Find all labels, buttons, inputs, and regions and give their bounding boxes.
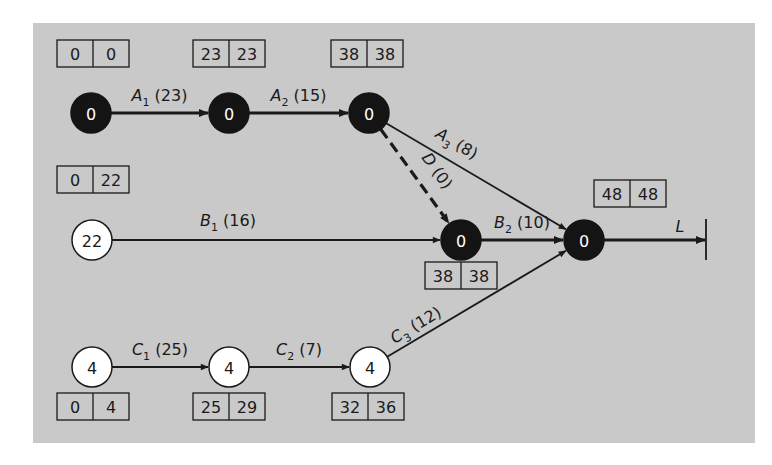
event-node-c1: 4 [209, 347, 249, 387]
latest-time: 22 [101, 171, 121, 190]
latest-time: 36 [376, 398, 396, 417]
time-box-end: 4848 [594, 180, 666, 207]
time-box-a1: 2323 [193, 40, 265, 67]
earliest-time: 32 [340, 398, 360, 417]
node-slack-value: 0 [86, 105, 96, 124]
latest-time: 29 [237, 398, 257, 417]
latest-time: 38 [375, 45, 395, 64]
earliest-time: 48 [602, 185, 622, 204]
activity-l-label: L [676, 217, 685, 236]
network-diagram: A1 (23)A2 (15)A3 (8)D (0)B1 (16)B2 (10)C… [0, 0, 772, 465]
event-node-a2: 0 [349, 93, 389, 133]
node-slack-value: 0 [579, 232, 589, 251]
latest-time: 0 [106, 45, 116, 64]
event-node-b0: 22 [72, 220, 112, 260]
earliest-time: 0 [70, 398, 80, 417]
latest-time: 48 [638, 185, 658, 204]
latest-time: 38 [469, 267, 489, 286]
earliest-time: 0 [70, 171, 80, 190]
event-node-end: 0 [564, 220, 604, 260]
node-slack-value: 0 [456, 232, 466, 251]
earliest-time: 38 [339, 45, 359, 64]
earliest-time: 0 [70, 45, 80, 64]
time-box-a2: 3838 [331, 40, 403, 67]
latest-time: 4 [106, 398, 116, 417]
node-slack-value: 0 [364, 105, 374, 124]
event-node-a1: 0 [209, 93, 249, 133]
event-node-c0: 4 [72, 347, 112, 387]
node-slack-value: 0 [224, 105, 234, 124]
earliest-time: 25 [201, 398, 221, 417]
node-slack-value: 4 [365, 359, 375, 378]
node-slack-value: 4 [224, 359, 234, 378]
node-slack-value: 22 [82, 232, 102, 251]
event-node-d: 0 [441, 220, 481, 260]
earliest-time: 38 [433, 267, 453, 286]
node-slack-value: 4 [87, 359, 97, 378]
latest-time: 23 [237, 45, 257, 64]
event-node-c2: 4 [350, 347, 390, 387]
time-box-c2: 3236 [332, 393, 404, 420]
event-node-a0: 0 [71, 93, 111, 133]
time-box-c1: 2529 [193, 393, 265, 420]
earliest-time: 23 [201, 45, 221, 64]
time-box-d: 3838 [425, 262, 497, 289]
